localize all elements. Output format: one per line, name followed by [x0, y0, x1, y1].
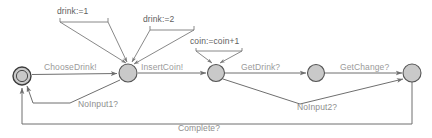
- transition-label-insert-coin: InsertCoin!: [141, 62, 183, 72]
- state-node-s1[interactable]: [119, 64, 137, 82]
- state-machine-diagram: drink:=1 drink:=2 coin:=coin+1 ChooseDri…: [0, 0, 432, 138]
- state-node-s4[interactable]: [403, 64, 421, 82]
- assignment-label-coin-increment: coin:=coin+1: [190, 36, 240, 46]
- transition-label-no-input-1: NoInput1?: [78, 99, 118, 109]
- edge-choose-drink: [32, 74, 117, 75]
- state-node-s0[interactable]: [13, 67, 31, 85]
- transition-label-no-input-2: NoInput2?: [297, 102, 337, 112]
- state-node-s2[interactable]: [208, 65, 225, 82]
- state-node-s3[interactable]: [308, 65, 325, 82]
- edge-no-input-2: [223, 79, 403, 104]
- diagram-canvas: drink:=1 drink:=2 coin:=coin+1 ChooseDri…: [0, 0, 432, 138]
- assignment-connector-drink-2: [132, 26, 194, 64]
- transition-label-get-drink: GetDrink?: [241, 62, 280, 72]
- assignment-label-drink-1: drink:=1: [57, 6, 88, 16]
- assignment-connector-coin-inc: [196, 48, 242, 63]
- assignment-connector-drink-1: [60, 18, 127, 63]
- transition-label-get-change: GetChange?: [340, 62, 389, 72]
- transition-label-complete: Complete?: [178, 123, 220, 133]
- transition-label-choose-drink: ChooseDrink!: [44, 62, 97, 72]
- assignment-label-drink-2: drink:=2: [143, 14, 174, 24]
